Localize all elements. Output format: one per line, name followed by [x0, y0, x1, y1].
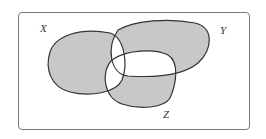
label-x: X — [40, 22, 47, 34]
label-y: Y — [220, 24, 226, 36]
venn-diagram — [0, 0, 266, 139]
label-z: Z — [163, 108, 169, 120]
